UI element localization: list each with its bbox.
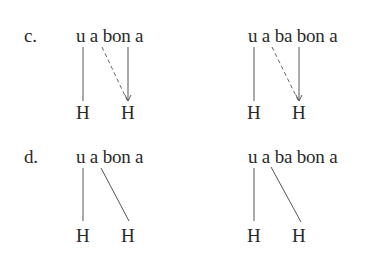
c-left-dashed-spread-line [102, 47, 127, 100]
d-left-association-line-2 [101, 168, 129, 221]
d-right-association-line-2 [271, 167, 301, 222]
association-lines [0, 0, 386, 259]
c-right-dashed-spread-line [272, 47, 298, 100]
